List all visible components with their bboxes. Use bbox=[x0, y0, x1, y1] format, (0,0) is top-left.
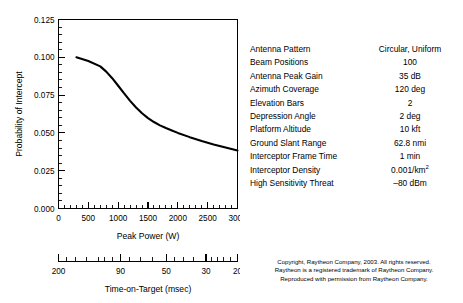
intercept-probability-chart: 0.0000.0250.0500.0750.1000.125 050010001… bbox=[0, 0, 240, 303]
x-tick-label: 3000 bbox=[228, 214, 240, 223]
parameter-value: 1 min bbox=[362, 150, 458, 163]
parameter-value: 0.001/km2 bbox=[362, 164, 458, 177]
secondary-axis-title: Time-on-Target (msec) bbox=[105, 284, 192, 294]
parameter-row: Beam Positions100 bbox=[250, 56, 458, 69]
y-axis-tick-labels: 0.0000.0250.0500.0750.1000.125 bbox=[34, 16, 55, 214]
x-axis-ticks bbox=[59, 202, 238, 209]
parameter-label: Depression Angle bbox=[250, 110, 362, 123]
parameter-label: Elevation Bars bbox=[250, 97, 362, 110]
x-tick-label: 1000 bbox=[109, 214, 128, 223]
parameter-value: Circular, Uniform bbox=[362, 43, 458, 56]
parameter-row: Ground Slant Range62.8 nmi bbox=[250, 137, 458, 150]
y-tick-label: 0.050 bbox=[34, 129, 55, 138]
secondary-tick-label: 90 bbox=[116, 267, 126, 276]
parameter-row: Antenna Peak Gain35 dB bbox=[250, 70, 458, 83]
parameter-value: 100 bbox=[362, 56, 458, 69]
figure-root: 0.0000.0250.0500.0750.1000.125 050010001… bbox=[0, 0, 463, 303]
plot-frame bbox=[59, 20, 238, 209]
secondary-tick-label: 20 bbox=[233, 267, 240, 276]
parameter-row: Interceptor Density0.001/km2 bbox=[250, 164, 458, 177]
parameter-row: Platform Altitude10 kft bbox=[250, 123, 458, 136]
secondary-tick-label: 200 bbox=[52, 267, 66, 276]
parameter-value: –80 dBm bbox=[362, 177, 458, 190]
y-axis-title: Probability of Intercept bbox=[14, 71, 24, 157]
secondary-axis-ticks bbox=[59, 254, 238, 262]
secondary-tick-label: 30 bbox=[201, 267, 211, 276]
parameter-value: 10 kft bbox=[362, 123, 458, 136]
y-axis-ticks bbox=[59, 20, 65, 209]
y-tick-label: 0.025 bbox=[34, 167, 55, 176]
parameter-row: Antenna PatternCircular, Uniform bbox=[250, 43, 458, 56]
parameter-label: Antenna Pattern bbox=[250, 43, 362, 56]
parameter-value: 2 deg bbox=[362, 110, 458, 123]
y-tick-label: 0.075 bbox=[34, 91, 55, 100]
y-tick-label: 0.125 bbox=[34, 16, 55, 25]
parameter-value: 2 bbox=[362, 97, 458, 110]
parameter-row: Elevation Bars2 bbox=[250, 97, 458, 110]
parameter-table: Antenna PatternCircular, UniformBeam Pos… bbox=[250, 43, 458, 190]
secondary-axis-tick-labels: 20090503020 bbox=[52, 267, 240, 276]
secondary-tick-label: 50 bbox=[162, 267, 172, 276]
parameter-value: 120 deg bbox=[362, 83, 458, 96]
copyright-notice: Copyright, Raytheon Company, 2003. All r… bbox=[248, 258, 460, 283]
parameter-label: Beam Positions bbox=[250, 56, 362, 69]
x-tick-label: 2000 bbox=[169, 214, 188, 223]
parameter-label: Interceptor Frame Time bbox=[250, 150, 362, 163]
copyright-line-3: Reproduced with permission from Raytheon… bbox=[248, 275, 460, 283]
x-tick-label: 2500 bbox=[199, 214, 218, 223]
parameter-label: Platform Altitude bbox=[250, 123, 362, 136]
x-axis-tick-labels: 050010001500200025003000 bbox=[56, 214, 240, 223]
parameter-row: Depression Angle2 deg bbox=[250, 110, 458, 123]
y-tick-label: 0.000 bbox=[34, 205, 55, 214]
intercept-probability-curve bbox=[76, 57, 237, 150]
parameter-label: Antenna Peak Gain bbox=[250, 70, 362, 83]
y-tick-label: 0.100 bbox=[34, 53, 55, 62]
parameter-value-exponent: 2 bbox=[426, 164, 429, 170]
parameter-row: High Sensitivity Threat–80 dBm bbox=[250, 177, 458, 190]
parameter-value: 35 dB bbox=[362, 70, 458, 83]
parameter-label: High Sensitivity Threat bbox=[250, 177, 362, 190]
copyright-line-1: Copyright, Raytheon Company, 2003. All r… bbox=[248, 258, 460, 266]
chart-canvas: 0.0000.0250.0500.0750.1000.125 050010001… bbox=[0, 0, 240, 303]
parameter-value: 62.8 nmi bbox=[362, 137, 458, 150]
parameter-value-text: 0.001/km bbox=[391, 165, 425, 175]
parameter-row: Interceptor Frame Time1 min bbox=[250, 150, 458, 163]
parameter-label: Azimuth Coverage bbox=[250, 83, 362, 96]
x-axis-title: Peak Power (W) bbox=[117, 231, 180, 241]
copyright-line-2: Raytheon is a registered trademark of Ra… bbox=[248, 266, 460, 274]
x-tick-label: 0 bbox=[56, 214, 61, 223]
parameter-row: Azimuth Coverage120 deg bbox=[250, 83, 458, 96]
x-tick-label: 1500 bbox=[139, 214, 158, 223]
parameter-label: Interceptor Density bbox=[250, 164, 362, 177]
x-tick-label: 500 bbox=[81, 214, 95, 223]
parameter-label: Ground Slant Range bbox=[250, 137, 362, 150]
